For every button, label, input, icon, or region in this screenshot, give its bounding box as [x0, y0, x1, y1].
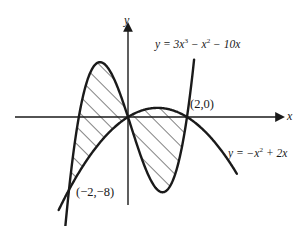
shaded-region-right [128, 108, 187, 192]
x-axis-label: x [287, 110, 292, 122]
cubic-equation-mid: − x [188, 38, 207, 50]
parabola-equation-label: y = −x2 + 2x [228, 147, 287, 159]
graph-figure: y x y = 3x3 − x2 − 10x y = −x2 + 2x (2,0… [0, 0, 304, 226]
point-label-minus2-minus8: (−2,−8) [76, 186, 114, 199]
y-axis-label: y [124, 14, 129, 26]
cubic-equation-lhs: y = 3x [155, 38, 184, 50]
parabola-equation-lhs: y = −x [228, 147, 259, 159]
cubic-equation-tail: − 10x [210, 38, 240, 50]
point-label-2-0: (2,0) [190, 98, 214, 111]
function-plot [0, 0, 304, 226]
parabola-equation-tail: + 2x [263, 147, 287, 159]
cubic-equation-label: y = 3x3 − x2 − 10x [155, 38, 240, 50]
